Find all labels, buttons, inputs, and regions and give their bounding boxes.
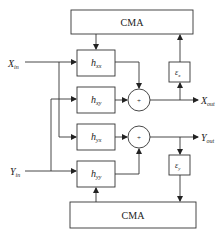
input-y-label: Yin bbox=[10, 166, 20, 178]
adder-y: + bbox=[128, 126, 150, 148]
filter-hyy: hyy bbox=[77, 161, 115, 187]
output-x-label: Xout bbox=[200, 95, 215, 107]
filter-hxy: hxy bbox=[77, 87, 115, 113]
cma-bottom-label: CMA bbox=[122, 210, 146, 221]
cma-equalizer-diagram: CMA CMA hxx hxy hyx hyy + + εx εy Xin bbox=[0, 0, 219, 238]
filter-hxx: hxx bbox=[77, 50, 115, 76]
cma-block-bottom: CMA bbox=[70, 202, 196, 228]
input-x-label: Xin bbox=[7, 58, 19, 70]
adder-x: + bbox=[128, 89, 150, 111]
cma-top-label: CMA bbox=[121, 17, 145, 28]
output-y-label: Yout bbox=[201, 132, 215, 144]
cma-block-top: CMA bbox=[71, 10, 193, 34]
filter-hyx: hyx bbox=[77, 124, 115, 150]
error-block-y: εy bbox=[169, 155, 190, 175]
svg-text:+: + bbox=[137, 134, 141, 142]
error-block-x: εx bbox=[169, 62, 190, 82]
svg-text:+: + bbox=[137, 97, 141, 105]
